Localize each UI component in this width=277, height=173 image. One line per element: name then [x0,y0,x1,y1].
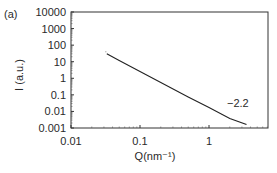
y-tick-label: 0.001 [38,122,66,134]
y-axis-label: I (a.u.) [13,59,25,91]
y-tick-label: 1000 [42,23,66,35]
plot-area [71,12,268,128]
y-tick-label: 0.01 [45,105,66,117]
panel-label: (a) [4,8,17,20]
x-axis-label: Q(nm⁻¹) [135,150,176,162]
data-series [105,51,247,125]
y-tick-label: 100 [48,39,66,51]
x-tick-label: 1 [206,135,212,147]
y-tick-label: 10 [54,56,66,68]
chart: (a) 1000010001001010.10.010.001 0.010.11… [0,0,277,173]
x-tick-label: 0.01 [60,135,81,147]
y-tick-label: 10000 [35,6,66,18]
y-tick-label: 1 [60,72,66,84]
y-tick-label: 0.1 [51,89,66,101]
y-axis: 1000010001001010.10.010.001 [35,6,74,134]
x-tick-label: 0.1 [132,135,147,147]
slope-annotation: −2.2 [227,97,249,109]
